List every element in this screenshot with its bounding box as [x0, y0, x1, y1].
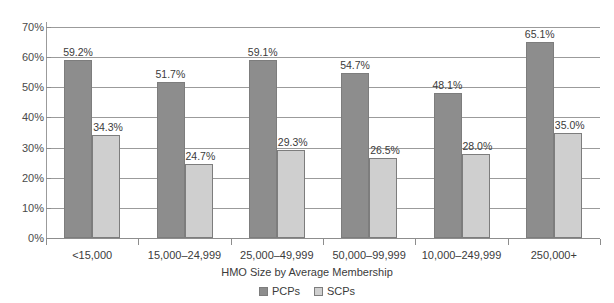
y-tick-label: 70% [2, 22, 44, 33]
bar-pcps[interactable] [526, 42, 554, 238]
x-category-label: 250,000+ [508, 249, 600, 262]
bar-value-label: 65.1% [525, 29, 555, 40]
gridline-10 [46, 208, 600, 209]
y-tick-label: 10% [2, 203, 44, 214]
bar-value-label: 59.2% [63, 47, 93, 58]
y-tick-mark [46, 27, 51, 28]
y-tick-mark [46, 117, 51, 118]
bar-scps[interactable] [554, 133, 582, 239]
bar-group: 59.1%29.3% [249, 27, 305, 238]
x-category-label: 15,000–24,999 [138, 249, 230, 262]
y-axis-tick-labels: 0%10%20%30%40%50%60%70% [0, 27, 44, 238]
bar-value-label: 35.0% [555, 120, 585, 131]
legend-item-scps[interactable]: SCPs [314, 285, 355, 298]
x-tick-mark [138, 239, 139, 245]
bar-pcps[interactable] [249, 60, 277, 238]
legend-swatch-icon [259, 287, 268, 296]
gridline-20 [46, 178, 600, 179]
bar-scps[interactable] [92, 135, 120, 238]
y-tick-mark [46, 238, 51, 239]
bar-pcps[interactable] [157, 82, 185, 238]
bar-value-label: 54.7% [340, 60, 370, 71]
gridline-30 [46, 148, 600, 149]
chart-legend: PCPsSCPs [0, 285, 614, 298]
x-category-label: 10,000–249,999 [415, 249, 507, 262]
bar-pcps[interactable] [341, 73, 369, 238]
y-tick-mark [46, 208, 51, 209]
y-tick-mark [46, 148, 51, 149]
bar-group: 54.7%26.5% [341, 27, 397, 238]
x-tick-mark [46, 239, 47, 245]
legend-label: SCPs [327, 285, 355, 298]
bar-pcps[interactable] [434, 93, 462, 238]
x-tick-mark [323, 239, 324, 245]
bar-value-label: 34.3% [93, 122, 123, 133]
y-tick-label: 30% [2, 143, 44, 154]
x-axis-title: HMO Size by Average Membership [0, 266, 614, 279]
x-category-label: 50,000–99,999 [323, 249, 415, 262]
x-tick-mark [600, 239, 601, 245]
bar-value-label: 29.3% [278, 137, 308, 148]
bar-scps[interactable] [369, 158, 397, 238]
grouped-bar-chart: 0%10%20%30%40%50%60%70% 59.2%34.3%51.7%2… [0, 0, 614, 303]
x-category-label: 25,000–49,999 [231, 249, 323, 262]
bar-scps[interactable] [277, 150, 305, 238]
y-tick-mark [46, 87, 51, 88]
bar-value-label: 24.7% [186, 151, 216, 162]
plot-area: 59.2%34.3%51.7%24.7%59.1%29.3%54.7%26.5%… [46, 27, 600, 238]
bar-pcps[interactable] [64, 60, 92, 238]
y-tick-label: 60% [2, 52, 44, 63]
legend-item-pcps[interactable]: PCPs [259, 285, 300, 298]
gridline-70 [46, 27, 600, 28]
x-tick-mark [231, 239, 232, 245]
x-category-label: <15,000 [46, 249, 138, 262]
bar-value-label: 26.5% [370, 145, 400, 156]
x-tick-mark [415, 239, 416, 245]
bar-value-label: 59.1% [248, 47, 278, 58]
gridline-50 [46, 87, 600, 88]
bar-group: 48.1%28.0% [434, 27, 490, 238]
gridline-40 [46, 117, 600, 118]
y-tick-label: 50% [2, 82, 44, 93]
y-tick-label: 20% [2, 173, 44, 184]
legend-swatch-icon [314, 287, 323, 296]
bar-scps[interactable] [462, 154, 490, 238]
gridline-60 [46, 57, 600, 58]
bar-value-label: 48.1% [433, 80, 463, 91]
bar-value-label: 28.0% [463, 141, 493, 152]
bar-group: 65.1%35.0% [526, 27, 582, 238]
bar-value-label: 51.7% [156, 69, 186, 80]
x-tick-mark [508, 239, 509, 245]
y-tick-label: 0% [2, 233, 44, 244]
bar-scps[interactable] [185, 164, 213, 238]
y-tick-label: 40% [2, 112, 44, 123]
y-tick-mark [46, 57, 51, 58]
legend-label: PCPs [272, 285, 300, 298]
bar-group: 51.7%24.7% [157, 27, 213, 238]
y-tick-mark [46, 178, 51, 179]
bar-group: 59.2%34.3% [64, 27, 120, 238]
